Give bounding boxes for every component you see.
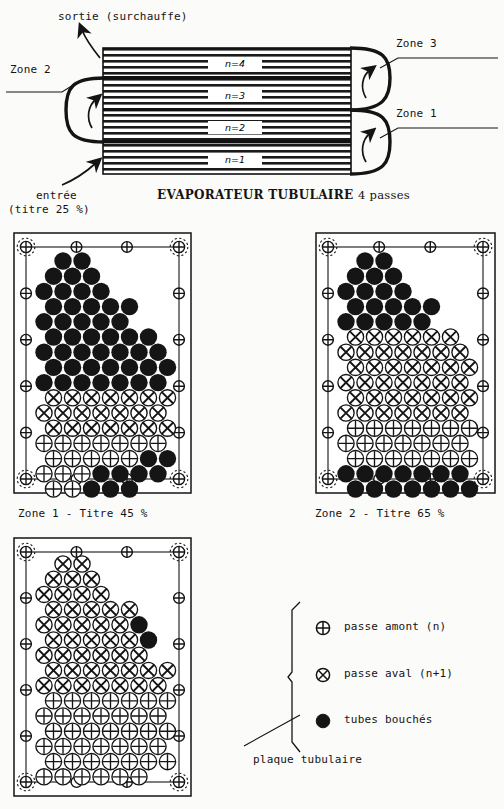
tube-zone2-r3-c3-blocked	[404, 298, 421, 315]
tube-zone2-r1-c1-blocked	[366, 268, 383, 285]
tube-zone1-r4-c3-blocked	[92, 313, 109, 330]
tube-zone1-r6-c0-blocked	[35, 344, 52, 361]
tube-zone1-r8-c1-blocked	[54, 374, 71, 391]
inlet-label-line2: (titre 25 %)	[8, 203, 90, 216]
tube-zone1-r5-c1-blocked	[64, 328, 81, 345]
tube-zone1-r3-c0-blocked	[45, 298, 62, 315]
tube-zone1-r6-c3-blocked	[92, 344, 109, 361]
tube-zone1-r7-c2-blocked	[83, 359, 100, 376]
tube-zone1-r7-c6-blocked	[159, 359, 176, 376]
tube-zone1-r0-c2-blocked	[73, 252, 90, 269]
panel-caption-zone1: Zone 1 - Titre 45 %	[18, 507, 148, 520]
tube-zone2-r2-c2-blocked	[375, 283, 392, 300]
zone2-label: Zone 2	[10, 63, 51, 76]
tube-zone1-r5-c5-blocked	[140, 328, 157, 345]
tube-zone1-r1-c2-blocked	[83, 268, 100, 285]
flow-arrow-left	[89, 99, 96, 128]
pass-label-n4: n=4	[208, 57, 262, 70]
tube-zone1-r14-c5-blocked	[130, 465, 147, 482]
tube-zone2-r0-c2-blocked	[375, 252, 392, 269]
return-bend-left-zone2	[66, 78, 104, 142]
tube-zone2-r4-c2-blocked	[375, 313, 392, 330]
tube-zone2-r4-c4-blocked	[413, 313, 430, 330]
tube-zone1-r13-c5-blocked	[140, 450, 157, 467]
tube-zone2-r1-c2-blocked	[385, 268, 402, 285]
tube-zone2-r4-c1-blocked	[356, 313, 373, 330]
tube-zone1-r7-c5-blocked	[140, 359, 157, 376]
tube-zone2-r4-c3-blocked	[394, 313, 411, 330]
figure-root: sortie (surchauffe) Zone 2 Zone 3 Zone 1…	[0, 0, 504, 809]
tubesheet-zone2	[316, 233, 495, 498]
return-bend-right-zone1	[350, 110, 390, 174]
tube-zone2-r2-c3-blocked	[394, 283, 411, 300]
flow-arrow-right-lower	[363, 133, 370, 162]
tube-zone1-r6-c2-blocked	[73, 344, 90, 361]
tube-zone1-r15-c3-blocked	[102, 480, 119, 497]
tube-zone1-r0-c1-blocked	[54, 252, 71, 269]
tube-zone2-r15-c4-blocked	[423, 480, 440, 497]
tube-zone1-r15-c2-blocked	[83, 480, 100, 497]
tube-zone2-r14-c6-blocked	[451, 465, 468, 482]
tube-zone1-r5-c4-blocked	[121, 328, 138, 345]
tube-zone1-r2-c0-blocked	[35, 283, 52, 300]
legend-symbol-tubes-bouches	[316, 714, 330, 728]
tube-zone2-r4-c0-blocked	[337, 313, 354, 330]
tube-zone2-r14-c2-blocked	[375, 465, 392, 482]
tube-zone1-r7-c0-blocked	[45, 359, 62, 376]
figure-title: EVAPORATEUR TUBULAIRE 4 passes	[157, 188, 410, 202]
legend-label-passe-amont: passe amont (n)	[344, 620, 446, 633]
tube-zone1-r5-c2-blocked	[83, 328, 100, 345]
tube-zone1-r6-c6-blocked	[149, 344, 166, 361]
zone2-leader	[6, 82, 78, 92]
legend-symbol-passe-aval	[316, 668, 329, 681]
tube-zone1-r7-c4-blocked	[121, 359, 138, 376]
tube-zone1-r3-c3-blocked	[102, 298, 119, 315]
tube-zone1-r4-c1-blocked	[54, 313, 71, 330]
tube-zone1-r5-c3-blocked	[102, 328, 119, 345]
tube-zone1-r14-c4-blocked	[111, 465, 128, 482]
tube-zone1-r3-c2-blocked	[83, 298, 100, 315]
tube-zone1-r8-c6-blocked	[149, 374, 166, 391]
legend-label-tubes-bouches: tubes bouchés	[344, 713, 433, 726]
legend-bracket	[288, 602, 300, 752]
tube-zone2-r3-c0-blocked	[347, 298, 364, 315]
tube-zone2-r15-c5-blocked	[442, 480, 459, 497]
tube-zone1-r2-c1-blocked	[54, 283, 71, 300]
legend-symbol-passe-amont	[316, 621, 329, 634]
tube-zone1-r6-c5-blocked	[130, 344, 147, 361]
tube-zone1-r8-c0-blocked	[35, 374, 52, 391]
tube-zone2-r15-c6-blocked	[461, 480, 478, 497]
figure-title-main: EVAPORATEUR TUBULAIRE	[157, 188, 353, 202]
pass-label-n1: n=1	[208, 153, 262, 166]
zone1-label: Zone 1	[396, 107, 437, 120]
tube-zone2-r1-c0-blocked	[347, 268, 364, 285]
tube-zone1-r4-c4-blocked	[111, 313, 128, 330]
tube-zone1-r14-c3-blocked	[92, 465, 109, 482]
tube-zone2-r2-c1-blocked	[356, 283, 373, 300]
tube-zone1-r1-c0-blocked	[45, 268, 62, 285]
tube-zone2-r0-c1-blocked	[356, 252, 373, 269]
tube-zone1-r1-c1-blocked	[64, 268, 81, 285]
tube-zone1-r3-c1-blocked	[64, 298, 81, 315]
tubesheet-callout-label: plaque tubulaire	[253, 753, 362, 766]
tube-zone1-r4-c0-blocked	[35, 313, 52, 330]
tube-zone2-r15-c1-blocked	[366, 480, 383, 497]
tube-zone2-r14-c5-blocked	[432, 465, 449, 482]
tube-zone1-r3-c4-blocked	[121, 298, 138, 315]
tube-zone1-r6-c1-blocked	[54, 344, 71, 361]
outlet-arrow	[82, 30, 100, 58]
tube-zone2-r3-c4-blocked	[423, 298, 440, 315]
zone1-leader	[380, 128, 498, 138]
tube-zone1-r8-c2-blocked	[73, 374, 90, 391]
tube-zone1-r13-c6-blocked	[159, 450, 176, 467]
pass-label-n3: n=3	[208, 89, 262, 102]
tube-zone1-r2-c2-blocked	[73, 283, 90, 300]
zone3-leader	[380, 58, 498, 68]
pass-label-n2: n=2	[208, 121, 262, 134]
tube-zone1-r8-c4-blocked	[111, 374, 128, 391]
tube-zone2-r14-c1-blocked	[356, 465, 373, 482]
tube-zone1-r2-c3-blocked	[92, 283, 109, 300]
tube-zone2-r14-c3-blocked	[394, 465, 411, 482]
tube-zone2-r15-c2-blocked	[385, 480, 402, 497]
tube-zone1-r15-c4-blocked	[121, 480, 138, 497]
